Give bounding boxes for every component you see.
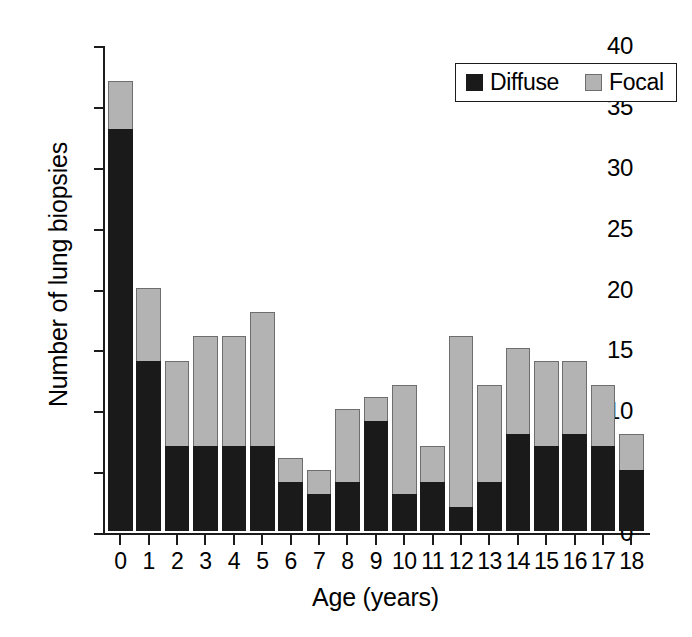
x-tick-mark xyxy=(403,535,405,545)
bar-segment-focal[interactable] xyxy=(165,361,190,446)
bar-segment-focal[interactable] xyxy=(193,336,218,446)
plot-area: 0510152025303540 01234567891011121314151… xyxy=(103,46,648,533)
bar-stack[interactable] xyxy=(364,397,389,531)
bar-segment-diffuse[interactable] xyxy=(222,446,247,531)
bar-segment-diffuse[interactable] xyxy=(335,482,360,531)
bar-segment-focal[interactable] xyxy=(136,288,161,361)
bar-stack[interactable] xyxy=(562,361,587,531)
bar-segment-diffuse[interactable] xyxy=(591,446,616,531)
x-tick-mark xyxy=(346,535,348,545)
bar-segment-diffuse[interactable] xyxy=(619,470,644,531)
bar-segment-focal[interactable] xyxy=(477,385,502,482)
legend-swatch-diffuse-icon xyxy=(466,74,483,91)
bar-stack[interactable] xyxy=(278,458,303,531)
x-tick-mark xyxy=(432,535,434,545)
bar-segment-diffuse[interactable] xyxy=(420,482,445,531)
x-tick-mark xyxy=(119,535,121,545)
bar-segment-focal[interactable] xyxy=(449,336,474,506)
y-tick-mark xyxy=(94,472,103,474)
y-tick-label: 25 xyxy=(573,217,633,241)
bar-segment-focal[interactable] xyxy=(392,385,417,495)
bar-segment-diffuse[interactable] xyxy=(506,434,531,531)
bar-segment-diffuse[interactable] xyxy=(534,446,559,531)
bar-segment-focal[interactable] xyxy=(278,458,303,482)
legend-entry: Focal xyxy=(585,71,664,94)
y-axis-line xyxy=(103,46,105,535)
bar-stack[interactable] xyxy=(193,336,218,531)
bar-segment-diffuse[interactable] xyxy=(193,446,218,531)
bar-stack[interactable] xyxy=(165,361,190,531)
bar-segment-focal[interactable] xyxy=(534,361,559,446)
y-tick-label: 30 xyxy=(573,156,633,180)
bar-stack[interactable] xyxy=(108,81,133,531)
bar-segment-focal[interactable] xyxy=(562,361,587,434)
bar-stack[interactable] xyxy=(392,385,417,531)
bar-stack[interactable] xyxy=(477,385,502,531)
y-tick-mark xyxy=(94,533,103,535)
bar-stack[interactable] xyxy=(136,288,161,531)
x-tick-mark xyxy=(375,535,377,545)
bar-stack[interactable] xyxy=(591,385,616,531)
bar-segment-diffuse[interactable] xyxy=(477,482,502,531)
x-tick-mark xyxy=(545,535,547,545)
bar-stack[interactable] xyxy=(250,312,275,531)
x-tick-mark xyxy=(574,535,576,545)
bar-segment-diffuse[interactable] xyxy=(364,421,389,531)
bar-stack[interactable] xyxy=(222,336,247,531)
bar-stack[interactable] xyxy=(506,348,531,531)
x-tick-mark xyxy=(460,535,462,545)
legend-entry: Diffuse xyxy=(466,71,559,94)
bar-segment-focal[interactable] xyxy=(222,336,247,446)
y-tick-mark xyxy=(94,411,103,413)
bar-stack[interactable] xyxy=(619,434,644,531)
bar-segment-diffuse[interactable] xyxy=(250,446,275,531)
y-axis-title: Number of lung biopsies xyxy=(44,65,73,485)
bar-stack[interactable] xyxy=(307,470,332,531)
bar-stack[interactable] xyxy=(449,336,474,531)
bar-stack[interactable] xyxy=(534,361,559,531)
legend-swatch-focal-icon xyxy=(585,74,602,91)
legend-label: Focal xyxy=(609,71,664,94)
bar-segment-focal[interactable] xyxy=(364,397,389,421)
x-tick-mark xyxy=(517,535,519,545)
y-tick-label: 15 xyxy=(573,338,633,362)
x-tick-mark xyxy=(176,535,178,545)
x-tick-mark xyxy=(488,535,490,545)
bar-segment-diffuse[interactable] xyxy=(278,482,303,531)
x-tick-mark xyxy=(602,535,604,545)
bar-segment-diffuse[interactable] xyxy=(136,361,161,531)
bar-segment-diffuse[interactable] xyxy=(165,446,190,531)
y-tick-label: 20 xyxy=(573,278,633,302)
bar-stack[interactable] xyxy=(420,446,445,531)
y-tick-mark xyxy=(94,350,103,352)
bar-segment-focal[interactable] xyxy=(307,470,332,494)
bar-segment-focal[interactable] xyxy=(591,385,616,446)
x-tick-mark xyxy=(630,535,632,545)
bar-segment-focal[interactable] xyxy=(108,81,133,130)
bar-segment-focal[interactable] xyxy=(250,312,275,446)
bar-segment-focal[interactable] xyxy=(619,434,644,471)
chart-legend: DiffuseFocal xyxy=(455,63,677,102)
bar-segment-focal[interactable] xyxy=(420,446,445,483)
bar-segment-diffuse[interactable] xyxy=(108,129,133,531)
bar-segment-diffuse[interactable] xyxy=(449,507,474,531)
y-tick-mark xyxy=(94,229,103,231)
bar-segment-diffuse[interactable] xyxy=(392,494,417,531)
bar-stack[interactable] xyxy=(335,409,360,531)
x-axis-title: Age (years) xyxy=(103,583,648,612)
bar-segment-diffuse[interactable] xyxy=(562,434,587,531)
x-tick-mark xyxy=(318,535,320,545)
x-tick-mark xyxy=(290,535,292,545)
x-tick-label: 18 xyxy=(611,549,651,573)
bar-segment-diffuse[interactable] xyxy=(307,494,332,531)
chart-figure: Number of lung biopsies Age (years) 0510… xyxy=(0,0,692,637)
y-tick-mark xyxy=(94,290,103,292)
y-tick-mark xyxy=(94,107,103,109)
x-tick-mark xyxy=(261,535,263,545)
bar-segment-focal[interactable] xyxy=(506,348,531,433)
x-tick-mark xyxy=(148,535,150,545)
x-tick-mark xyxy=(233,535,235,545)
bar-segment-focal[interactable] xyxy=(335,409,360,482)
y-tick-mark xyxy=(94,168,103,170)
y-tick-mark xyxy=(94,46,103,48)
